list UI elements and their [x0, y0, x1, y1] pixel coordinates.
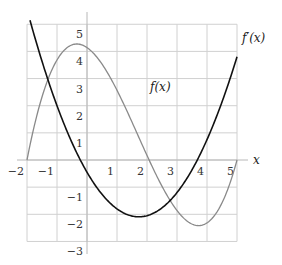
x-tick-label: 3	[167, 165, 174, 178]
x-axis-label: x	[253, 153, 260, 167]
x-tick-label: 1	[107, 165, 114, 178]
y-tick-label: 4	[76, 55, 83, 68]
x-tick-label: −1	[38, 165, 54, 178]
x-tick-label: −2	[8, 165, 24, 178]
y-tick-label: −1	[67, 191, 83, 204]
y-tick-label: 5	[76, 28, 83, 41]
y-tick-label: −2	[67, 218, 83, 231]
x-tick-label: 4	[197, 165, 204, 178]
y-tick-label: 1	[76, 137, 83, 150]
f-prime-curve-label: f′(x)	[241, 31, 266, 45]
f-curve	[27, 44, 237, 226]
y-tick-label: 3	[76, 83, 83, 96]
y-tick-label: −3	[67, 245, 83, 258]
function-plot: −2−11234554321−1−2−3 f(x) f′(x) x	[0, 0, 282, 265]
y-tick-label: 2	[76, 110, 83, 123]
f-curve-label: f(x)	[149, 80, 171, 94]
x-tick-label: 2	[137, 165, 144, 178]
